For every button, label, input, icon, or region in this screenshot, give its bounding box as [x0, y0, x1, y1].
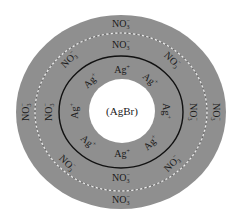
svg-text:NO3−: NO3− — [112, 193, 130, 206]
svg-text:NO3−: NO3− — [210, 103, 223, 121]
svg-text:NO3−: NO3− — [112, 171, 130, 184]
svg-text:NO3−: NO3− — [112, 38, 130, 51]
svg-text:NO3−: NO3− — [42, 102, 55, 120]
svg-text:NO3−: NO3− — [187, 103, 200, 121]
svg-text:NO3−: NO3− — [19, 102, 32, 120]
svg-text:NO3−: NO3− — [112, 17, 130, 30]
agbr-colloid-diagram: (AgBr) Ag+ Ag+ Ag+ Ag+ Ag+ Ag+ Ag+ Ag+ N… — [0, 0, 239, 221]
core-label: (AgBr) — [106, 105, 138, 118]
